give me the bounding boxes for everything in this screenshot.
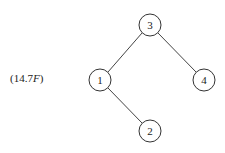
edges bbox=[108, 33, 196, 123]
node-label: 3 bbox=[147, 19, 153, 31]
tree-node-3: 3 bbox=[139, 14, 161, 36]
tree-node-4: 4 bbox=[193, 69, 215, 91]
tree-node-2: 2 bbox=[139, 120, 161, 142]
edge-1-2 bbox=[108, 88, 142, 123]
edge-3-1 bbox=[108, 33, 142, 72]
edge-3-4 bbox=[158, 33, 196, 72]
node-label: 4 bbox=[201, 74, 207, 86]
node-label: 2 bbox=[147, 125, 153, 137]
binary-tree-diagram: 3 1 4 2 bbox=[0, 0, 225, 153]
tree-node-1: 1 bbox=[89, 69, 111, 91]
node-label: 1 bbox=[97, 74, 103, 86]
